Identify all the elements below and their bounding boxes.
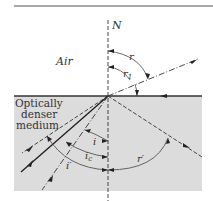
label-angle-r1: r1 <box>123 68 132 81</box>
label-normal: N <box>111 19 122 32</box>
label-angle-i-prime: i′ <box>66 160 72 171</box>
total-internal-reflection-diagram: N Air r r1 Optically denser medium i ic … <box>0 0 213 201</box>
refracted-ray-r <box>108 59 198 96</box>
label-angle-r-prime: r′ <box>137 153 145 164</box>
label-angle-i: i <box>93 136 96 147</box>
label-air: Air <box>55 55 73 68</box>
label-medium: medium <box>16 119 59 131</box>
